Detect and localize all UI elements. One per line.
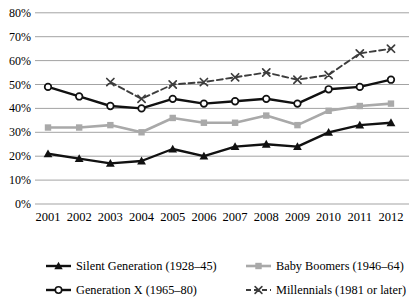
y-tick-label: 40%: [9, 101, 31, 115]
y-tick-label: 60%: [9, 54, 31, 68]
circle-marker: [232, 98, 239, 105]
y-tick-label: 70%: [9, 30, 31, 44]
generations-line-chart-figure: 0%10%20%30%40%50%60%70%80%20012002200320…: [0, 0, 411, 303]
series-line-triangle: [48, 123, 391, 164]
circle-marker: [388, 76, 395, 83]
y-tick-label: 0%: [15, 197, 31, 211]
x-tick-label: 2007: [223, 210, 248, 224]
square-marker: [388, 100, 394, 106]
x-tick-label: 2005: [160, 210, 185, 224]
y-tick-label: 20%: [9, 149, 31, 163]
y-tick-label: 80%: [9, 6, 31, 20]
legend-sample-x: [245, 284, 272, 296]
chart-legend: Silent Generation (1928–45)Baby Boomers …: [0, 248, 411, 303]
square-marker: [263, 112, 269, 118]
legend-label: Generation X (1965–80): [76, 283, 197, 298]
x-tick-label: 2010: [316, 210, 341, 224]
circle-marker: [357, 84, 364, 91]
x-tick-label: 2011: [348, 210, 373, 224]
legend-label: Baby Boomers (1946–64): [276, 259, 404, 274]
y-tick-label: 50%: [9, 78, 31, 92]
chart-plot-area: 0%10%20%30%40%50%60%70%80%20012002200320…: [0, 0, 411, 248]
x-marker: [138, 95, 145, 102]
legend-sample-square: [245, 260, 272, 272]
square-marker: [294, 122, 300, 128]
circle-marker: [76, 93, 83, 100]
y-tick-label: 10%: [9, 173, 31, 187]
x-tick-label: 2001: [36, 210, 61, 224]
legend-label: Millennials (1981 or later): [276, 283, 406, 298]
series-line-x: [110, 49, 391, 99]
circle-marker: [169, 96, 176, 103]
x-tick-label: 2012: [378, 210, 403, 224]
legend-item-square: Baby Boomers (1946–64): [245, 258, 404, 274]
circle-marker: [325, 86, 332, 93]
square-marker: [170, 115, 176, 121]
square-marker: [138, 129, 144, 135]
circle-marker: [138, 105, 145, 112]
square-marker: [325, 108, 331, 114]
circle-marker: [45, 84, 52, 91]
square-marker: [76, 124, 82, 130]
x-tick-label: 2006: [191, 210, 216, 224]
x-tick-label: 2004: [129, 210, 155, 224]
square-marker: [232, 120, 238, 126]
x-tick-label: 2008: [254, 210, 279, 224]
legend-item-x: Millennials (1981 or later): [245, 282, 406, 298]
legend-item-circle: Generation X (1965–80): [45, 282, 197, 298]
square-marker: [107, 122, 113, 128]
circle-marker: [294, 100, 301, 107]
legend-sample-circle: [45, 284, 72, 296]
square-marker: [357, 103, 363, 109]
square-marker: [201, 120, 207, 126]
legend-sample-triangle: [45, 260, 72, 272]
legend-label: Silent Generation (1928–45): [76, 259, 217, 274]
circle-marker: [201, 100, 208, 107]
x-tick-label: 2003: [98, 210, 123, 224]
legend-item-triangle: Silent Generation (1928–45): [45, 258, 217, 274]
x-tick-label: 2002: [67, 210, 92, 224]
square-marker: [45, 124, 51, 130]
y-tick-label: 30%: [9, 125, 31, 139]
circle-marker: [263, 96, 270, 103]
circle-marker: [107, 103, 114, 110]
x-tick-label: 2009: [285, 210, 310, 224]
